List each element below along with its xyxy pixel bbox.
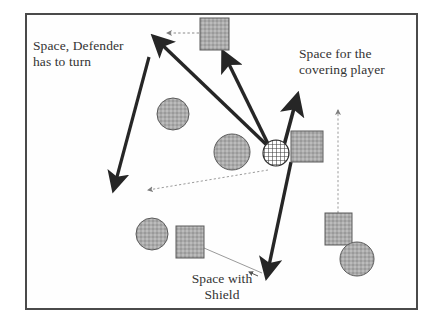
square-lower-right [325, 213, 352, 245]
arrow-dotted-center-down-left [148, 170, 268, 190]
square-top [200, 18, 229, 50]
diagram-stage: Space, Defender has to turn Space for th… [0, 0, 443, 335]
circle-lower-right [340, 242, 374, 276]
label-space-with-shield: Space with Shield [167, 271, 277, 303]
square-lower-left [176, 226, 204, 258]
circle-lower-left [136, 218, 168, 250]
arrow-center-down-to-bottom [267, 162, 291, 275]
circle-upper-left [157, 98, 189, 130]
label-space-covering-player: Space for the covering player [299, 46, 424, 78]
square-center-right [291, 131, 323, 162]
leader-line-shield [204, 248, 262, 273]
arrow-double-down-left [114, 57, 149, 188]
circle-center-left [214, 134, 250, 170]
label-space-defender-turn: Space, Defender has to turn [33, 38, 183, 70]
circle-ball-center [263, 140, 289, 166]
